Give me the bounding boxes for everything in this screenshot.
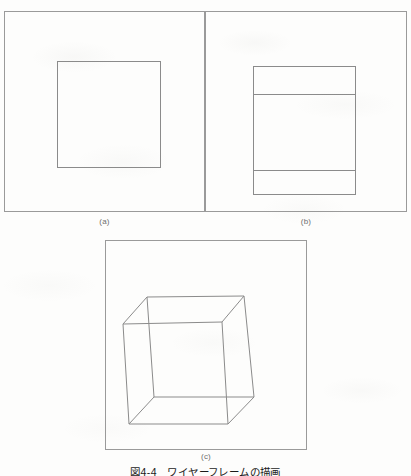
- panel-c: [100, 235, 315, 460]
- figure-container: (a) (b) (c) 図4-4 ワイヤーフレームの描画: [0, 0, 411, 476]
- connector-top-right-edge: [222, 296, 244, 322]
- cube-front-face-square: [58, 62, 161, 168]
- cube-back-face: [147, 296, 254, 397]
- cube-front-face: [123, 322, 228, 424]
- panel-c-frame: [106, 241, 307, 450]
- connector-top-left-edge: [123, 297, 147, 324]
- connector-bottom-left-edge: [129, 397, 154, 424]
- panel-b: [200, 0, 411, 218]
- panel-a-label: (a): [4, 217, 205, 226]
- panel-b-frame: [206, 12, 407, 212]
- panel-c-label: (c): [105, 452, 307, 461]
- cube-outline-rect: [254, 67, 356, 195]
- connector-bottom-right-edge: [228, 397, 254, 424]
- panel-b-label: (b): [205, 217, 407, 226]
- panel-a: [0, 0, 211, 218]
- panel-a-frame: [5, 12, 205, 212]
- figure-caption: 図4-4 ワイヤーフレームの描画: [0, 464, 411, 476]
- wireframe-cube: [123, 296, 254, 424]
